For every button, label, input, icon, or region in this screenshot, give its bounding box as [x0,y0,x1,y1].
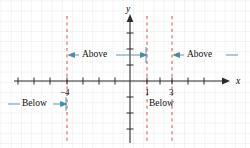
region-label-below-middle: Below [149,99,174,109]
region-label-above-left: Above [82,50,107,60]
y-axis-arrowhead [127,14,134,22]
region-label-below-left: Below [22,99,47,109]
arrow-above-left [69,47,147,63]
x-axis-label: x [236,77,240,87]
y-axis [127,14,134,143]
y-axis-label: y [126,5,130,15]
coordinate-plane [0,0,250,148]
x-tick-label-1: 1 [145,88,150,97]
x-tick-label-3: 3 [169,88,174,97]
region-label-above-right: Above [187,50,212,60]
graph-figure: x y −4 1 3 Above Above Below Below [0,0,250,148]
x-axis-arrowhead [222,78,230,85]
x-axis [14,78,230,85]
x-tick-label-minus4: −4 [60,88,70,97]
